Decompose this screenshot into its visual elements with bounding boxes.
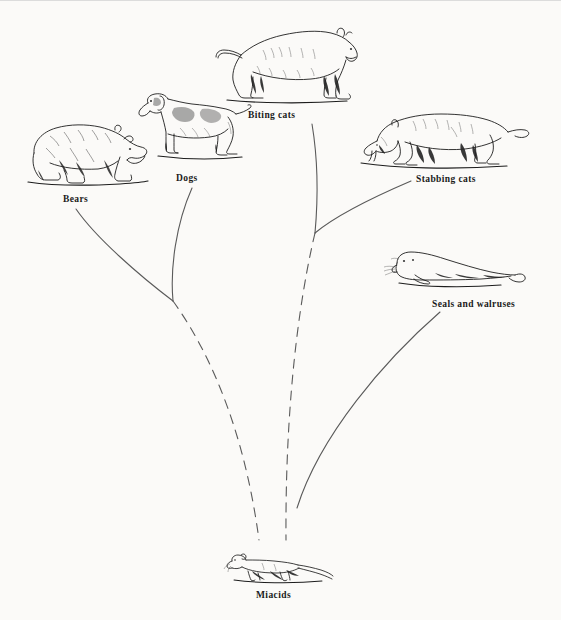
sabertooth-cat-illustration (355, 97, 531, 169)
lion-illustration (213, 22, 361, 104)
figure-canvas: Bears (0, 0, 561, 620)
label-miacids: Miacids (256, 590, 291, 600)
branch-stabbing-cats (315, 181, 411, 233)
node-bears[interactable] (20, 108, 150, 188)
label-dogs: Dogs (176, 173, 198, 183)
top-border-line (0, 0, 561, 1)
node-biting-cats[interactable] (213, 22, 361, 104)
branch-bears (76, 209, 173, 301)
label-bears: Bears (63, 194, 88, 204)
label-biting-cats: Biting cats (248, 110, 295, 120)
branch-seals (297, 312, 440, 508)
label-stabbing-cats: Stabbing cats (416, 174, 476, 184)
node-seals-walruses[interactable] (383, 245, 528, 293)
label-seals-walruses: Seals and walruses (432, 299, 515, 309)
seal-illustration (383, 245, 528, 293)
branch-dogs (172, 188, 192, 301)
bear-illustration (20, 108, 150, 188)
node-stabbing-cats[interactable] (355, 97, 531, 169)
node-miacids[interactable] (222, 549, 336, 585)
branch-cats-stem (286, 233, 315, 540)
miacid-illustration (222, 549, 336, 585)
branch-bears-dogs-stem (173, 301, 259, 540)
branch-biting-cats (312, 124, 317, 233)
